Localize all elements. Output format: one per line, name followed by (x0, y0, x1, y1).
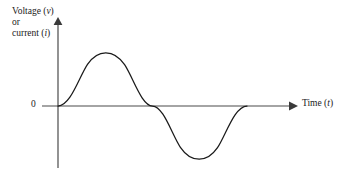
sine-wave-figure: Voltage (v) or current (i) Time (t) 0 (0, 0, 349, 176)
y-axis-label-line-2: or (12, 17, 54, 28)
y-axis-label: Voltage (v) or current (i) (12, 6, 54, 40)
y-axis-arrowhead (54, 17, 63, 25)
origin-label: 0 (31, 99, 36, 110)
x-axis-label: Time (t) (302, 98, 333, 109)
y-axis-label-line-3: current (i) (12, 28, 54, 39)
y-axis-label-line-1: Voltage (v) (12, 6, 54, 17)
x-axis-arrowhead (289, 102, 298, 111)
